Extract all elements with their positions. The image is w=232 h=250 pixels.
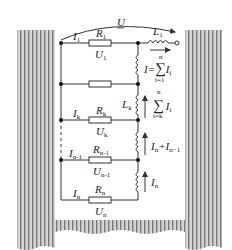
terminal <box>175 41 179 45</box>
right-wall <box>185 30 222 250</box>
resistor-Rn <box>89 197 111 203</box>
circuit-diagram: U I1 R1 U1 L1 I=∑Ii n i=1 Lk ∑Ii n i=k I… <box>0 0 232 250</box>
bottom-wall <box>55 220 185 234</box>
left-wall <box>17 30 55 250</box>
label-U: U <box>117 16 126 28</box>
resistor-Rk <box>89 117 111 123</box>
sum-k-bottom: i=k <box>153 112 163 120</box>
label-sum-total: I=∑Ii <box>143 60 171 77</box>
label-R1: R1 <box>95 27 107 41</box>
label-L1: L1 <box>152 25 163 39</box>
sum-k-top: n <box>157 88 161 96</box>
sum-total-bottom: i=1 <box>155 76 165 84</box>
resistor-middle <box>89 81 111 87</box>
resistor-R1 <box>89 40 111 46</box>
resistor-Rn1 <box>89 157 111 163</box>
sum-total-top: n <box>159 53 163 61</box>
